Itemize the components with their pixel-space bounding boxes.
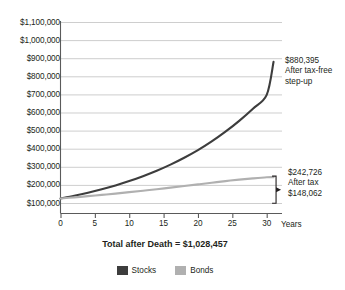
data-series-lines bbox=[61, 62, 274, 199]
x-tick-label-25: 25 bbox=[219, 219, 245, 228]
annotation-stocks-note-line-1: After tax-free bbox=[285, 66, 332, 76]
legend-item-bonds[interactable]: Bonds bbox=[175, 266, 213, 275]
chart-legend: StocksBonds bbox=[0, 266, 330, 275]
axis-lines bbox=[61, 21, 283, 214]
y-tick-label-100000: $100,000 bbox=[0, 199, 60, 208]
chart-caption: Total after Death = $1,028,457 bbox=[0, 239, 330, 250]
y-tick-label-500000: $500,000 bbox=[0, 126, 60, 135]
series-line-bonds bbox=[61, 177, 274, 198]
x-tick-label-30: 30 bbox=[254, 219, 280, 228]
series-line-stocks bbox=[61, 62, 274, 199]
legend-swatch-stocks bbox=[117, 266, 128, 275]
annotation-bonds-amount: $242,726 bbox=[288, 168, 322, 178]
bracket-arrow-icon bbox=[276, 187, 281, 192]
x-tick-label-5: 5 bbox=[82, 219, 108, 228]
annotation-bonds-note-line-1: After tax bbox=[288, 178, 322, 188]
y-tick-label-900000: $900,000 bbox=[0, 54, 60, 63]
annotation-bonds-endpoint: $242,726 After tax $148,062 bbox=[288, 168, 322, 199]
y-tick-label-600000: $600,000 bbox=[0, 108, 60, 117]
legend-label-stocks: Stocks bbox=[132, 266, 157, 275]
x-axis-title: Years bbox=[281, 220, 302, 229]
legend-item-stocks[interactable]: Stocks bbox=[117, 266, 157, 275]
bonds-range-bracket bbox=[272, 176, 281, 203]
y-tick-label-300000: $300,000 bbox=[0, 162, 60, 171]
y-tick-label-800000: $800,000 bbox=[0, 72, 60, 81]
y-tick-label-200000: $200,000 bbox=[0, 180, 60, 189]
y-tick-label-400000: $400,000 bbox=[0, 144, 60, 153]
legend-label-bonds: Bonds bbox=[190, 266, 213, 275]
x-tick-label-15: 15 bbox=[151, 219, 177, 228]
bracket-outline bbox=[272, 176, 276, 203]
chart-figure: $100,000$200,000$300,000$400,000$500,000… bbox=[0, 0, 345, 290]
x-tick-label-0: 0 bbox=[48, 219, 74, 228]
x-tick-label-10: 10 bbox=[116, 219, 142, 228]
y-tick-label-1000000: $1,000,000 bbox=[0, 36, 60, 45]
x-tick-label-20: 20 bbox=[185, 219, 211, 228]
annotation-stocks-note-line-2: step-up bbox=[285, 77, 332, 87]
annotation-bonds-note-line-2: $148,062 bbox=[288, 189, 322, 199]
annotation-stocks-endpoint: $880,395 After tax-free step-up bbox=[285, 56, 332, 87]
y-tick-label-1100000: $1,100,000 bbox=[0, 18, 60, 27]
y-tick-label-700000: $700,000 bbox=[0, 90, 60, 99]
annotation-stocks-amount: $880,395 bbox=[285, 56, 332, 66]
legend-swatch-bonds bbox=[175, 266, 186, 275]
